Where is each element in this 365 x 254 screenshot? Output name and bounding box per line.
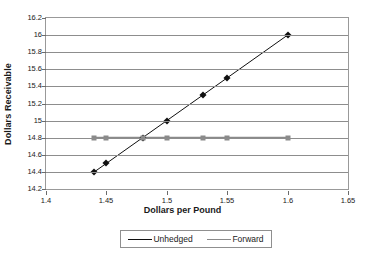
y-axis-tick-mark	[42, 52, 46, 53]
legend-swatch-unhedged	[128, 235, 152, 244]
chart-container: Dollars Receivable 14.214.414.614.81515.…	[0, 0, 365, 254]
y-axis-tick-label: 15.6	[6, 65, 42, 73]
data-point-unhedged	[225, 75, 230, 80]
legend-label-unhedged: Unhedged	[153, 235, 192, 244]
gridline	[46, 104, 348, 105]
y-axis-tick-labels: 14.214.414.614.81515.215.415.615.81616.2	[2, 0, 42, 254]
y-axis-tick-mark	[42, 138, 46, 139]
gridline	[46, 121, 348, 122]
gridline	[46, 86, 348, 87]
x-axis-tick-label: 1.45	[99, 196, 114, 205]
legend-item-forward[interactable]: Forward	[207, 235, 263, 244]
y-axis-tick-mark	[42, 172, 46, 173]
gridline	[46, 172, 348, 173]
x-axis-tick-label: 1.6	[283, 196, 293, 205]
x-axis-title: Dollars per Pound	[0, 205, 365, 215]
x-axis-tick-label: 1.65	[341, 196, 356, 205]
y-axis-tick-label: 14.8	[6, 134, 42, 142]
chart-legend: Unhedged Forward	[120, 230, 272, 248]
y-axis-tick-label: 14.4	[6, 168, 42, 176]
x-axis-tick-mark	[106, 191, 107, 195]
gridline	[46, 155, 348, 156]
y-axis-tick-label: 16.2	[6, 14, 42, 22]
y-axis-tick-label: 16	[6, 31, 42, 39]
y-axis-tick-mark	[42, 86, 46, 87]
legend-item-unhedged[interactable]: Unhedged	[128, 235, 192, 244]
gridline	[46, 69, 348, 70]
y-axis-tick-mark	[42, 121, 46, 122]
x-axis-tick-mark	[46, 191, 47, 195]
y-axis-tick-mark	[42, 104, 46, 105]
x-axis-tick-label: 1.55	[220, 196, 235, 205]
y-axis-tick-mark	[42, 35, 46, 36]
data-point-unhedged	[104, 161, 109, 166]
legend-label-forward: Forward	[232, 235, 263, 244]
y-axis-tick-mark	[42, 155, 46, 156]
y-axis-tick-mark	[42, 18, 46, 19]
y-axis-tick-label: 15.4	[6, 82, 42, 90]
x-axis-tick-mark	[227, 191, 228, 195]
gridline	[46, 52, 348, 53]
x-axis-tick-mark	[348, 191, 349, 195]
plot-area	[45, 17, 349, 190]
y-axis-tick-label: 15.2	[6, 100, 42, 108]
y-axis-tick-mark	[42, 189, 46, 190]
x-axis-tick-label: 1.5	[162, 196, 172, 205]
gridline	[46, 138, 348, 139]
gridline	[46, 35, 348, 36]
y-axis-tick-label: 15.8	[6, 48, 42, 56]
y-axis-tick-mark	[42, 69, 46, 70]
y-axis-tick-label: 14.6	[6, 151, 42, 159]
legend-swatch-forward	[207, 235, 231, 244]
y-axis-tick-label: 15	[6, 117, 42, 125]
data-point-unhedged	[201, 92, 206, 97]
x-axis-tick-mark	[167, 191, 168, 195]
x-axis-tick-label: 1.4	[41, 196, 51, 205]
x-axis-tick-mark	[288, 191, 289, 195]
